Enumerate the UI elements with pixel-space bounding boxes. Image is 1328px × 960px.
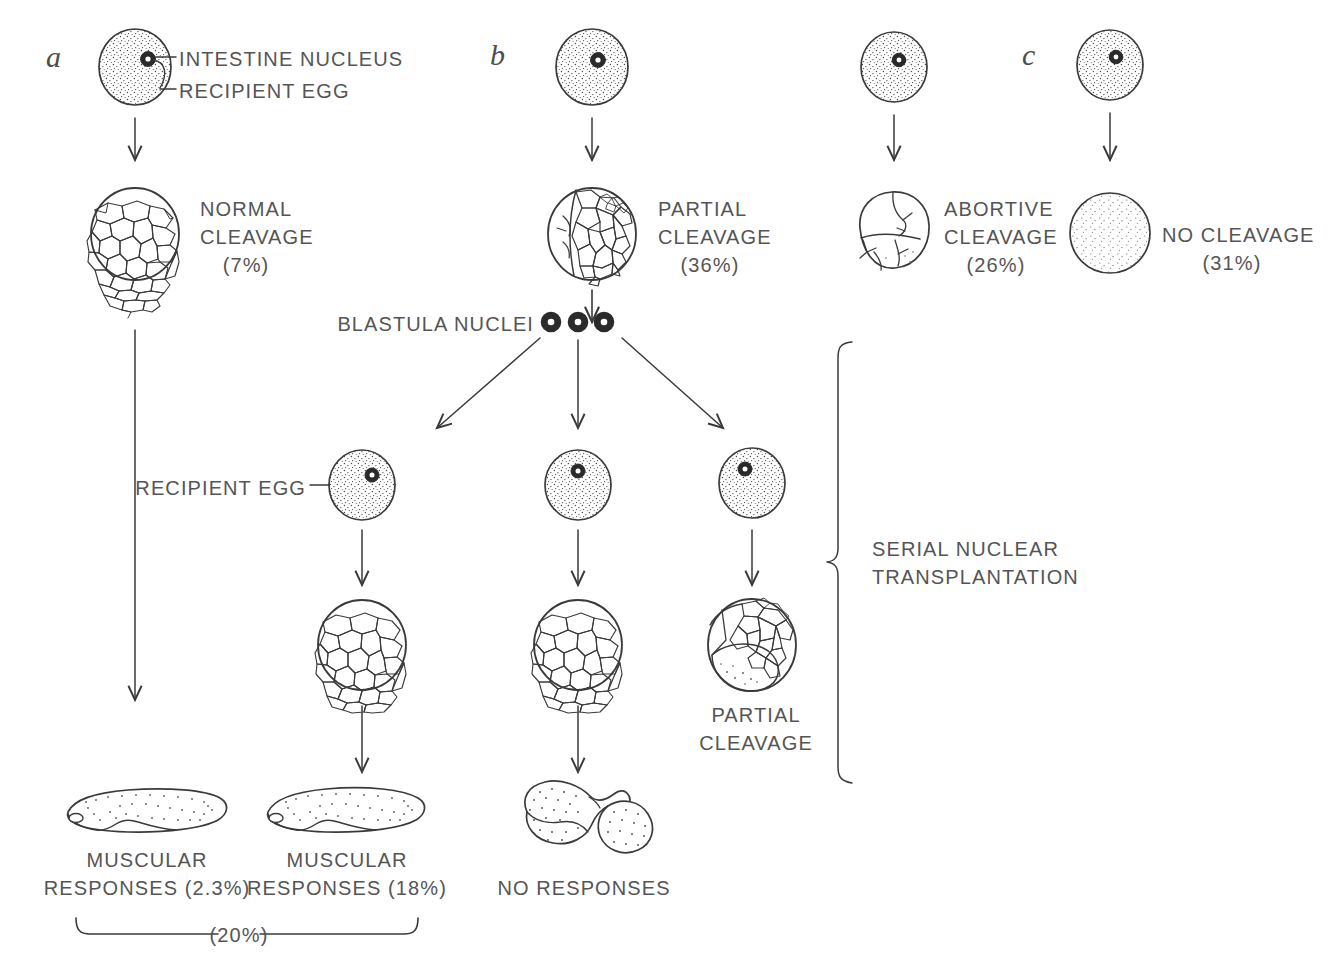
serial-transplantation-brace [827,342,852,783]
panel-letter-a: a [46,40,61,74]
egg-serial-left [310,450,395,520]
label-muscular-right-line2: RESPONSES (18%) [247,875,447,901]
egg-abortive-top [861,32,927,102]
label-muscular-right-line1: MUSCULAR [286,847,407,873]
embryo-mid-left [267,788,424,833]
morula-normal-a [87,188,179,318]
label-serial-transplantation-line1: SERIAL NUCLEAR [872,536,1059,562]
label-no-cleavage-line1: NO CLEAVAGE [1162,222,1315,248]
arrow-branch-left [437,338,540,428]
label-normal-cleavage-percent: (7%) [223,252,270,278]
label-muscular-left-line2: RESPONSES (2.3%) [44,875,251,901]
abortive-cleavage-egg [860,192,929,270]
morula-serial-left [315,600,406,713]
label-no-cleavage-percent: (31%) [1203,250,1262,276]
egg-c-top [1077,30,1143,100]
label-recipient-egg: RECIPIENT EGG [179,78,350,104]
partial-cleavage-b [548,188,636,286]
label-serial-transplantation-line2: TRANSPLANTATION [872,564,1079,590]
panel-letter-b: b [490,38,505,72]
label-abortive-cleavage-percent: (26%) [967,252,1026,278]
label-abortive-cleavage-line1: ABORTIVE [944,196,1054,222]
blastula-nuclei-dots [542,313,614,332]
label-partial-cleavage-line2: CLEAVAGE [658,224,772,250]
egg-serial-mid [545,450,611,520]
embryo-left [67,789,226,832]
label-recipient-egg-lower: RECIPIENT EGG [135,475,306,501]
panel-letter-c: c [1022,38,1035,72]
label-blastula-nuclei: BLASTULA NUCLEI [337,311,534,337]
label-intestine-nucleus: INTESTINE NUCLEUS [179,46,403,72]
label-muscular-left-line1: MUSCULAR [86,847,207,873]
label-normal-cleavage-line1: NORMAL [200,196,292,222]
label-no-responses: NO RESPONSES [497,875,670,901]
label-normal-cleavage-line2: CLEAVAGE [200,224,314,250]
label-partial-cleavage-percent: (36%) [681,252,740,278]
label-abortive-cleavage-line2: CLEAVAGE [944,224,1058,250]
no-cleavage-egg [1070,193,1150,273]
figure-canvas: a b c INTESTINE NUCLEUS RECIPIENT EGG NO… [0,0,1328,960]
label-partial-cleavage-serial-line2: CLEAVAGE [699,730,813,756]
label-partial-cleavage-serial-line1: PARTIAL [711,702,800,728]
partial-cleavage-serial-right [708,598,796,691]
morula-serial-mid [531,600,622,713]
embryo-no-responses [525,781,653,853]
label-combined-percent: (20%) [210,922,269,948]
label-partial-cleavage-line1: PARTIAL [658,196,747,222]
egg-serial-right [719,448,785,518]
egg-a-top [99,29,176,105]
arrow-branch-right [622,338,723,428]
egg-b-top [556,29,628,105]
